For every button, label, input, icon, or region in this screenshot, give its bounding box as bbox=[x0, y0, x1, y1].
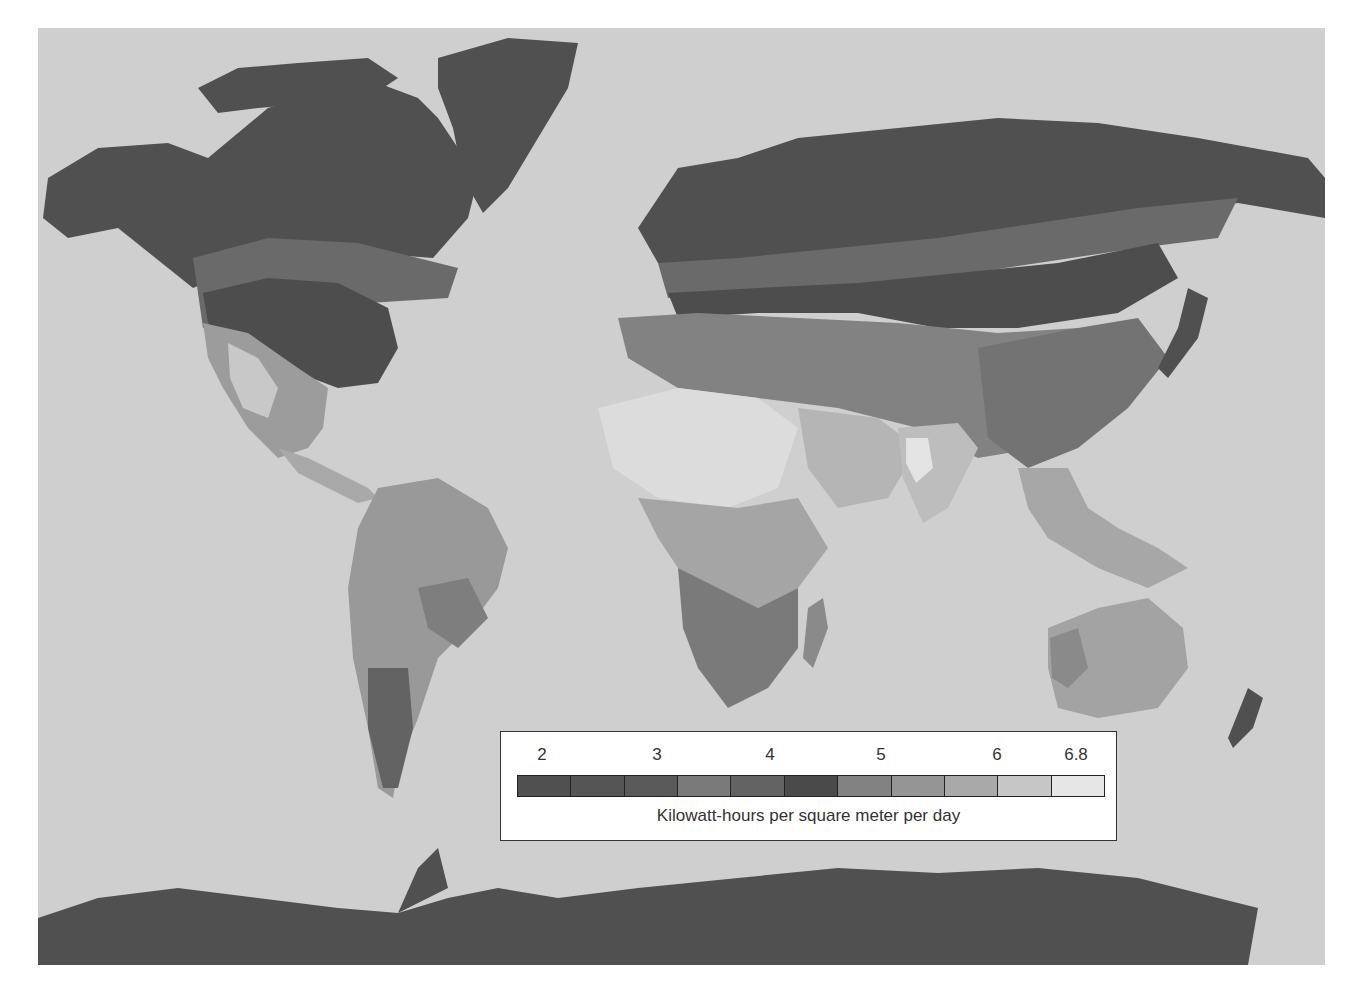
region-sahara bbox=[598, 388, 798, 508]
legend-tick: 5 bbox=[876, 745, 885, 765]
legend-swatch bbox=[892, 776, 945, 796]
legend-swatch bbox=[838, 776, 891, 796]
legend-swatch bbox=[998, 776, 1051, 796]
legend-swatch bbox=[785, 776, 838, 796]
legend-swatch bbox=[625, 776, 678, 796]
legend-color-scale bbox=[517, 775, 1105, 797]
legend-swatch bbox=[1052, 776, 1104, 796]
legend-caption: Kilowatt-hours per square meter per day bbox=[501, 806, 1116, 826]
legend-tick: 3 bbox=[652, 745, 661, 765]
region-japan bbox=[1158, 288, 1208, 378]
region-central-africa bbox=[638, 498, 828, 608]
legend-swatch bbox=[731, 776, 784, 796]
legend-tick: 6 bbox=[992, 745, 1001, 765]
legend-swatch bbox=[678, 776, 731, 796]
legend-tick: 4 bbox=[765, 745, 774, 765]
legend-swatch bbox=[945, 776, 998, 796]
region-madagascar bbox=[803, 598, 828, 668]
legend-tick: 2 bbox=[537, 745, 546, 765]
region-southeast-asia bbox=[1018, 468, 1188, 588]
region-south-america bbox=[348, 478, 508, 798]
region-new-zealand bbox=[1228, 688, 1263, 748]
legend-tick: 6.8 bbox=[1064, 745, 1088, 765]
map-legend: 2 3 4 5 6 6.8 Kilowatt-hours per square … bbox=[500, 731, 1117, 841]
legend-swatch bbox=[518, 776, 571, 796]
legend-swatch bbox=[571, 776, 624, 796]
region-antarctica bbox=[38, 868, 1258, 965]
region-central-america bbox=[278, 448, 378, 503]
region-patagonia bbox=[368, 668, 413, 788]
